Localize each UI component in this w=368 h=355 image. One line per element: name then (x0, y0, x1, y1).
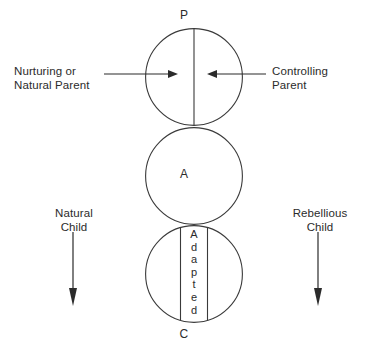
natural-child-label: Natural Child (28, 206, 120, 234)
rebellious-child-arrow (314, 232, 322, 306)
nurturing-parent-label: Nurturing or Natural Parent (14, 64, 134, 92)
adapted-band-letter: A (180, 228, 208, 241)
child-letter-label: C (0, 327, 368, 341)
pac-diagram: P A C Nurturing or Natural Parent Contro… (0, 0, 368, 355)
adult-letter-label: A (0, 167, 368, 181)
adapted-band-letter: p (180, 266, 208, 279)
controlling-parent-label: Controlling Parent (272, 64, 368, 92)
natural-child-arrow (69, 232, 77, 306)
adapted-band-letter: d (180, 241, 208, 254)
adapted-band-letter: d (180, 304, 208, 317)
adapted-band-letter: e (180, 291, 208, 304)
adapted-band-letter: t (180, 278, 208, 291)
parent-letter-label: P (0, 8, 368, 22)
adapted-band-label: Adapted (180, 228, 208, 316)
adapted-band-letter: a (180, 253, 208, 266)
rebellious-child-label: Rebellious Child (272, 206, 368, 234)
